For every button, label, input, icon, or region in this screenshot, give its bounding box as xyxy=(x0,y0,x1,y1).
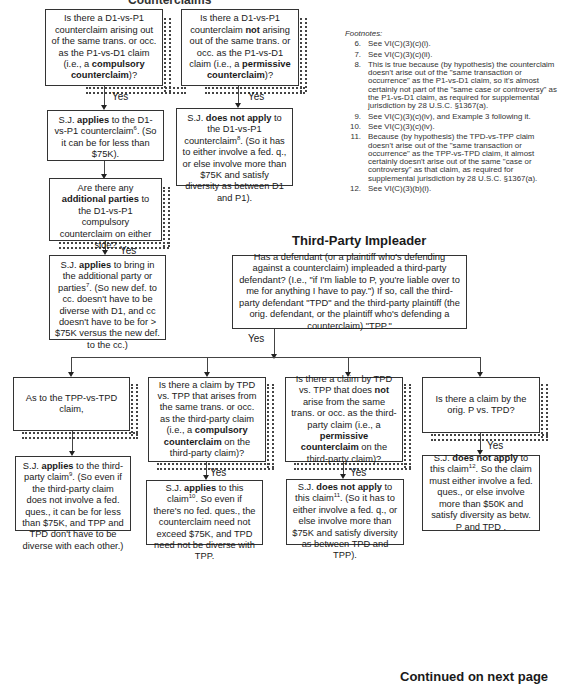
footnote-item: 9.See VI(C)(3)(c)(iv), and Example 3 fol… xyxy=(345,113,557,121)
tpp-vs-tpd-result: S.J. applies to the third-party claim9. … xyxy=(15,456,131,531)
box-shadow xyxy=(131,384,138,436)
footnotes: Footnotes: 6.See VI(C)(3)(c)(i). 7.See V… xyxy=(345,30,557,195)
yes-label: Yes xyxy=(350,467,366,478)
tp-permissive-result: S.J. does not apply to this claim11. (So… xyxy=(286,479,404,545)
tp-permissive-counterclaim-question: Is there a claim by TPD vs. TPP that doe… xyxy=(285,377,403,462)
yes-label: Yes xyxy=(112,91,128,102)
orig-p-vs-tpd-question: Is there a claim by the orig. P vs. TPD? xyxy=(422,377,540,433)
footnote-item: 6.See VI(C)(3)(c)(i). xyxy=(345,40,557,48)
permissive-result: S.J. does not apply to the D1-vs-P1 coun… xyxy=(176,108,293,186)
footnotes-heading: Footnotes: xyxy=(345,30,557,38)
tp-compulsory-counterclaim-question: Is there a claim by TPD vs. TPP that ari… xyxy=(148,377,266,462)
connector xyxy=(274,329,275,357)
section-title-counterclaims: Counterclaims xyxy=(128,0,211,7)
footnote-item: 11.Because (by hypothesis) the TPD-vs-TP… xyxy=(345,133,557,183)
box-shadow xyxy=(22,432,138,439)
yes-label: Yes xyxy=(487,440,503,451)
box-shadow xyxy=(163,187,170,247)
branch-line xyxy=(71,357,481,358)
yes-label: Yes xyxy=(248,91,264,102)
box-shadow xyxy=(86,87,186,94)
yes-label: Yes xyxy=(248,333,264,344)
orig-p-result: S.J. does not apply to this claim12. So … xyxy=(422,455,540,531)
impleader-title: Third-Party Impleader xyxy=(292,233,426,248)
box-shadow xyxy=(541,384,548,438)
footnote-item: 8.This is true because (by hypothesis) t… xyxy=(345,61,557,111)
permissive-counterclaim-question: Is there a D1-vs-P1 counterclaim not ari… xyxy=(181,9,299,86)
compulsory-counterclaim-question: Is there a D1-vs-P1 counterclaim arising… xyxy=(45,9,163,86)
tpp-vs-tpd-question: As to the TPP-vs-TPD claim, xyxy=(13,377,130,431)
continued-note: Continued on next page xyxy=(400,669,548,684)
footnote-item: 12.See VI(C)(3)(b)(i). xyxy=(345,185,557,193)
footnote-item: 7.See VI(C)(3)(c)(ii). xyxy=(345,51,557,59)
box-shadow xyxy=(267,384,274,468)
tp-compulsory-result: S.J. applies to this claim10. So even if… xyxy=(146,480,263,545)
box-shadow xyxy=(300,18,307,92)
box-shadow xyxy=(404,384,411,468)
additional-parties-result: S.J. applies to bring in the additional … xyxy=(49,255,166,340)
impleader-question: Has a defendant (or a plaintiff who's de… xyxy=(232,255,467,329)
box-shadow xyxy=(164,18,171,92)
footnote-item: 10.See VI(C)(3)(c)(iv). xyxy=(345,123,557,131)
compulsory-result: S.J. applies to the D1-vs-P1 counterclai… xyxy=(47,110,164,161)
additional-parties-question: Are there any additional parties to the … xyxy=(49,178,162,241)
yes-label: Yes xyxy=(210,467,226,478)
